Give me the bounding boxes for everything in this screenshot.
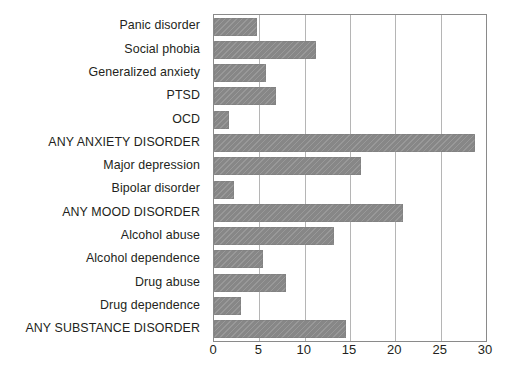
bar-row[interactable] xyxy=(214,38,486,61)
bar-row[interactable] xyxy=(214,318,486,341)
category-label-ocd: OCD xyxy=(0,107,207,130)
category-label-alcohol-abuse: Alcohol abuse xyxy=(0,224,207,247)
bar-series xyxy=(214,15,486,341)
bar-row[interactable] xyxy=(214,155,486,178)
x-tick-label-5: 5 xyxy=(255,343,262,356)
bar[interactable] xyxy=(214,204,403,222)
category-label-drug-abuse: Drug abuse xyxy=(0,270,207,293)
bar[interactable] xyxy=(214,274,286,292)
bar[interactable] xyxy=(214,111,229,129)
category-label-ptsd: PTSD xyxy=(0,84,207,107)
bar-row[interactable] xyxy=(214,85,486,108)
x-tick-label-10: 10 xyxy=(296,343,310,356)
bar[interactable] xyxy=(214,87,276,105)
category-label-panic-disorder: Panic disorder xyxy=(0,14,207,37)
bar-row[interactable] xyxy=(214,108,486,131)
category-label-major-depression: Major depression xyxy=(0,154,207,177)
bar-row[interactable] xyxy=(214,15,486,38)
plot-area xyxy=(213,14,487,342)
bar[interactable] xyxy=(214,181,234,199)
bar-row[interactable] xyxy=(214,294,486,317)
bar[interactable] xyxy=(214,18,257,36)
x-tick-label-25: 25 xyxy=(432,343,446,356)
x-tick-label-20: 20 xyxy=(387,343,401,356)
value-axis: 051015202530 xyxy=(213,343,487,367)
bar[interactable] xyxy=(214,41,316,59)
bar[interactable] xyxy=(214,320,346,338)
category-axis: Panic disorder Social phobia Generalized… xyxy=(0,14,207,340)
category-label-any-anxiety-disorder: ANY ANXIETY DISORDER xyxy=(0,130,207,153)
bar-row[interactable] xyxy=(214,248,486,271)
bar[interactable] xyxy=(214,157,361,175)
category-label-generalized-anxiety: Generalized anxiety xyxy=(0,61,207,84)
bar-row[interactable] xyxy=(214,201,486,224)
x-tick-label-0: 0 xyxy=(209,343,216,356)
bar[interactable] xyxy=(214,227,334,245)
bar-row[interactable] xyxy=(214,131,486,154)
bar-row[interactable] xyxy=(214,271,486,294)
category-label-any-substance-disorder: ANY SUBSTANCE DISORDER xyxy=(0,317,207,340)
x-tick-label-30: 30 xyxy=(478,343,492,356)
bar[interactable] xyxy=(214,134,475,152)
bar-row[interactable] xyxy=(214,225,486,248)
category-label-social-phobia: Social phobia xyxy=(0,37,207,60)
bar[interactable] xyxy=(214,250,263,268)
bar[interactable] xyxy=(214,64,266,82)
x-tick-label-15: 15 xyxy=(342,343,356,356)
bar-chart-figure: Panic disorder Social phobia Generalized… xyxy=(0,0,511,388)
category-label-drug-dependence: Drug dependence xyxy=(0,293,207,316)
bar[interactable] xyxy=(214,297,241,315)
category-label-alcohol-dependence: Alcohol dependence xyxy=(0,247,207,270)
bar-row[interactable] xyxy=(214,178,486,201)
category-label-any-mood-disorder: ANY MOOD DISORDER xyxy=(0,200,207,223)
category-label-bipolar-disorder: Bipolar disorder xyxy=(0,177,207,200)
bar-row[interactable] xyxy=(214,62,486,85)
